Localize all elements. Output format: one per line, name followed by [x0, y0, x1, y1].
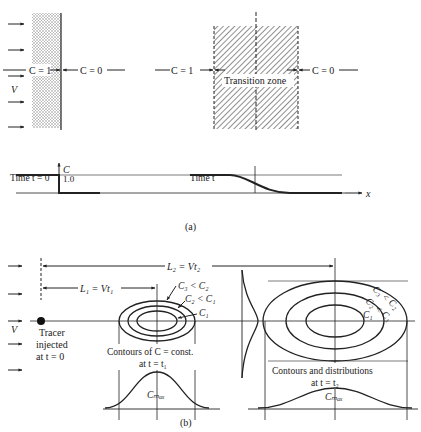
contour1-c1-label: C₁: [199, 308, 209, 318]
contour2-caption-2: at t = t₂: [311, 378, 339, 388]
label-c0-left: C = 0: [80, 65, 102, 76]
tracer-label-1: Tracer: [39, 327, 65, 338]
tracer-label-3: at t = 0: [36, 351, 64, 362]
L2-label: L₂ = Vt₂: [166, 261, 201, 272]
panel-b: V Tracer injected at t = 0 L₂ = Vt₂ L₁ =…: [8, 258, 418, 429]
caption-b: (b): [180, 417, 192, 429]
velocity-label-a: V: [11, 84, 19, 95]
tracer-point: [37, 317, 45, 325]
flow-arrows-left: [8, 24, 24, 127]
panel-a-right-block: C = 1 C = 0 Transition zone: [155, 12, 358, 130]
dispersion-diagram: C = 1 C = 0 V C = 1 C = 0 Transition zon…: [0, 0, 421, 432]
panel-a-profile: x C 1.0 Time t = 0 Time t (a): [10, 163, 371, 233]
contour2-cmax-label: Cₘₐₓ: [325, 392, 343, 402]
contour1-c3-label: C₃ < C₂: [178, 281, 209, 291]
contour2-caption-1: Contours and distributions: [272, 366, 373, 376]
L1-label: L₁ = Vt₁: [79, 283, 113, 294]
contour1-cmax-label: Cₘₐₓ: [147, 390, 165, 400]
y-tick-1: 1.0: [63, 174, 75, 184]
label-c1-left: C = 1: [29, 65, 51, 76]
label-c0-right: C = 0: [312, 65, 334, 76]
contour1-caption-1: Contours of C = const.: [107, 347, 193, 357]
label-c1-right: C = 1: [171, 65, 193, 76]
contours-t2: C₃ < C₂ C₂ < C₁ C₁ Contours and distribu…: [242, 270, 418, 420]
tracer-label-2: injected: [36, 339, 68, 350]
x-axis-label: x: [365, 188, 371, 199]
flow-arrows-b: [8, 266, 22, 370]
caption-a: (a): [185, 221, 196, 233]
transition-zone-label: Transition zone: [224, 75, 287, 86]
panel-a-left-block: C = 1 C = 0 V: [3, 13, 125, 130]
velocity-label-b: V: [11, 324, 19, 335]
contour1-caption-2: at t = t₁: [139, 359, 167, 369]
contour2-c1-label: C₁: [363, 310, 373, 320]
contour1-c2-label: C₂ < C₁: [185, 294, 215, 304]
transverse-distribution: [242, 270, 258, 378]
contours-t1: C₃ < C₂ C₂ < C₁ C₁ Contours of C = const…: [103, 281, 220, 420]
